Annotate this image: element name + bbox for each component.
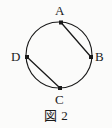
vertex-label-b: B	[95, 50, 104, 63]
vertex-label-a: A	[55, 4, 64, 17]
vertex-label-d: D	[11, 50, 20, 63]
figure-container: A B C D 図 2	[0, 0, 112, 128]
point-marker-b	[89, 55, 93, 59]
point-marker-a	[59, 21, 63, 25]
chord-d-c	[27, 57, 60, 88]
point-marker-d	[25, 55, 29, 59]
main-circle	[26, 22, 92, 88]
figure-caption: 図 2	[0, 108, 112, 123]
vertex-label-c: C	[55, 93, 64, 106]
chord-a-b	[61, 23, 91, 58]
point-marker-c	[58, 86, 62, 90]
